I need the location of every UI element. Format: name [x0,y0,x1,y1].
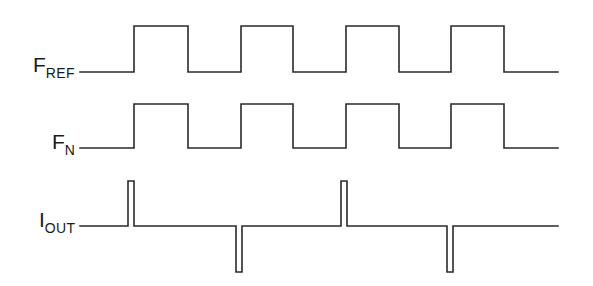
iout-waveform [80,181,558,272]
timing-diagram: FREF FN IOUT [0,0,593,286]
fref-waveform [80,26,558,72]
fn-waveform [80,104,558,148]
waveforms [0,0,593,286]
